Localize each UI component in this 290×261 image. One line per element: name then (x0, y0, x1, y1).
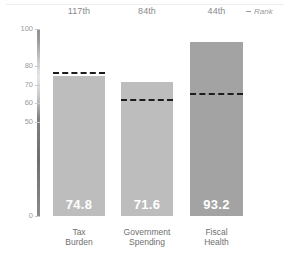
category-label-government-spending: Government Spending (113, 227, 181, 247)
bar-government-spending[interactable]: 71.6 (121, 82, 173, 216)
y-tick-label-100: 100 (11, 24, 33, 34)
y-tick-60: 60 (10, 98, 40, 108)
y-tick-label-70: 70 (11, 80, 33, 90)
y-tick-mark (35, 103, 40, 104)
y-tick-mark (35, 122, 40, 123)
y-tick-80: 80 (10, 61, 40, 71)
y-tick-100: 100 (10, 24, 40, 34)
bar-tax-burden[interactable]: 74.8 (53, 76, 105, 216)
y-tick-label-60: 60 (11, 98, 33, 108)
y-tick-mark (35, 66, 40, 67)
plot-area: 100 80 70 60 50 0 74.8 71.6 (0, 0, 290, 261)
y-tick-label-0: 0 (11, 211, 33, 221)
y-tick-label-50: 50 (11, 117, 33, 127)
bar-value-government-spending: 71.6 (121, 197, 173, 212)
y-tick-mark (35, 216, 40, 217)
category-label-tax-burden: Tax Burden (53, 227, 105, 247)
category-label-fiscal-health: Fiscal Health (190, 227, 243, 247)
bar-value-fiscal-health: 93.2 (190, 197, 243, 212)
y-tick-0: 0 (10, 211, 40, 221)
rank-marker-tax-burden (53, 72, 105, 74)
y-tick-mark (35, 29, 40, 30)
bar-value-tax-burden: 74.8 (53, 197, 105, 212)
y-tick-70: 70 (10, 80, 40, 90)
bar-chart: 117th 84th 44th Rank 100 80 70 60 50 0 (0, 0, 290, 261)
y-tick-mark (35, 85, 40, 86)
y-tick-label-80: 80 (11, 61, 33, 71)
rank-marker-government-spending (121, 99, 173, 101)
y-tick-50: 50 (10, 117, 40, 127)
rank-marker-fiscal-health (190, 93, 243, 95)
bar-fiscal-health[interactable]: 93.2 (190, 42, 243, 216)
